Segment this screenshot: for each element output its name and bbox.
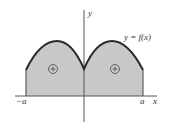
curve-label: y = f(x) xyxy=(123,32,151,42)
area-diagram: y y = f(x) −a a x xyxy=(0,0,169,128)
y-axis-label: y xyxy=(87,8,92,18)
x-axis-label: x xyxy=(152,96,157,106)
tick-label-a: a xyxy=(140,96,145,106)
tick-label-neg-a: −a xyxy=(16,96,27,106)
